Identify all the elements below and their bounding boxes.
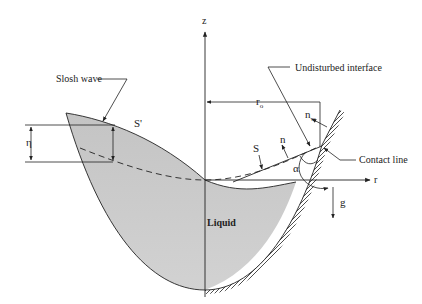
liquid-label: Liquid — [207, 217, 236, 228]
s-prime-label: S' — [134, 117, 142, 129]
n-normal — [282, 145, 288, 158]
slosh-diagram: z r ro η Slosh wave S' Undisturbed inter… — [0, 0, 422, 304]
undisturbed-interface-leader — [268, 67, 310, 146]
eta-label: η — [26, 136, 32, 148]
r-axis-label: r — [374, 174, 378, 185]
contact-angle-arc — [300, 156, 318, 164]
contact-line-leader — [324, 148, 356, 160]
undisturbed-interface-label: Undisturbed interface — [295, 62, 382, 73]
slosh-wave-label: Slosh wave — [56, 73, 102, 84]
n-label: n — [280, 133, 286, 145]
s-label: S — [253, 142, 259, 154]
s-arrow — [259, 155, 262, 169]
slosh-wave-leader — [97, 79, 127, 121]
z-axis-label: z — [202, 15, 207, 26]
n-w-label: nw — [305, 108, 317, 123]
alpha-label: α — [293, 162, 299, 174]
gravity-label: g — [340, 196, 346, 208]
r-o-label: ro — [256, 95, 264, 110]
contact-line-label: Contact line — [359, 154, 408, 165]
